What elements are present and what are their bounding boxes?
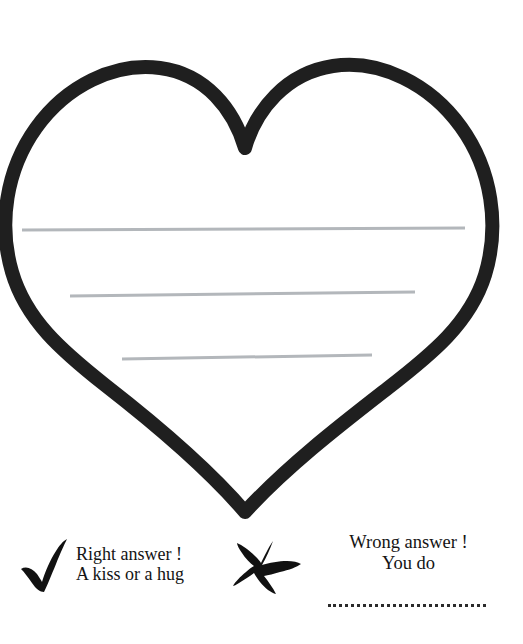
check-mark-icon [18,536,70,594]
right-answer-block: Right answer ! A kiss or a hug [18,528,233,644]
heart-writing-area [0,0,523,530]
heart-outline-svg [0,0,523,530]
heart-outline-path [5,65,492,512]
writing-line-3 [122,355,372,359]
wrong-answer-text: Wrong answer ! You do [321,532,496,573]
valentine-worksheet-page: Right answer ! A kiss or a hug Wrong ans… [0,0,523,644]
right-answer-text: Right answer ! A kiss or a hug [76,544,184,584]
right-answer-line-1: Right answer ! [76,544,184,564]
answer-key-row: Right answer ! A kiss or a hug Wrong ans… [0,528,523,644]
x-mark-icon [233,536,305,598]
wrong-answer-line-2: You do [321,553,496,574]
writing-line-2 [70,292,415,296]
dotted-blank-line[interactable] [328,598,486,607]
right-answer-line-2: A kiss or a hug [76,564,184,584]
wrong-answer-block: Wrong answer ! You do [233,528,518,644]
wrong-answer-line-1: Wrong answer ! [321,532,496,553]
writing-line-1 [22,228,465,230]
